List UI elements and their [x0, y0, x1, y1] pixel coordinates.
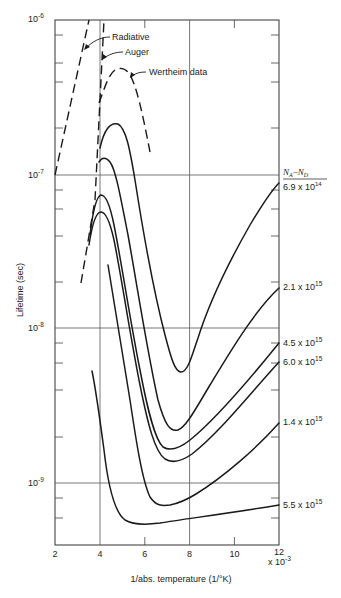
series-label-6.0e15: 6.0 x 1015	[283, 355, 323, 367]
series-label-6.9e14: 6.9 x 1014	[283, 181, 322, 192]
plot-frame	[55, 20, 279, 545]
svg-text:4: 4	[97, 549, 102, 559]
data-curves	[89, 124, 279, 525]
svg-text:12: 12	[274, 547, 284, 557]
series-label-5.5e15: 5.5 x 1015	[283, 498, 323, 510]
curve-6.0e15	[89, 212, 279, 461]
lifetime-chart: 10-6 10-7 10-8 10-9 2 4 6 8 10 12 x 10-3…	[0, 0, 341, 598]
curve-1.4e15	[108, 265, 279, 505]
grid-lines	[55, 20, 279, 545]
x-tick-labels: 2 4 6 8 10 12	[52, 547, 284, 559]
curve-radiative	[55, 20, 89, 175]
anno-auger: Auger	[125, 47, 149, 57]
svg-text:2: 2	[52, 549, 57, 559]
svg-text:10: 10	[229, 549, 239, 559]
legend-header: NA−ND	[282, 167, 327, 179]
svg-text:NA−ND: NA−ND	[282, 167, 309, 178]
anno-radiative: Radiative	[112, 32, 150, 42]
y-axis-title: Lifetime (sec)	[15, 263, 25, 317]
svg-text:10-8: 10-8	[28, 321, 44, 333]
y-tick-labels: 10-6 10-7 10-8 10-9	[28, 12, 44, 488]
svg-text:10-9: 10-9	[28, 476, 44, 488]
series-label-2.1e15: 2.1 x 1015	[283, 280, 323, 292]
series-label-4.5e15: 4.5 x 1015	[283, 336, 323, 348]
curve-wertheim	[99, 68, 150, 152]
svg-text:8: 8	[187, 549, 192, 559]
anno-wertheim: Wertheim data	[149, 67, 207, 77]
series-label-1.4e15: 1.4 x 1015	[283, 415, 323, 427]
svg-text:10-6: 10-6	[28, 12, 44, 24]
y-minor-ticks-right	[271, 35, 279, 518]
y-minor-ticks-left	[55, 35, 63, 518]
x-multiplier: x 10-3	[268, 555, 291, 567]
svg-text:6: 6	[142, 549, 147, 559]
curve-auger	[81, 20, 104, 283]
x-axis-title: 1/abs. temperature (1/°K)	[130, 574, 231, 584]
svg-text:10-7: 10-7	[28, 168, 44, 180]
